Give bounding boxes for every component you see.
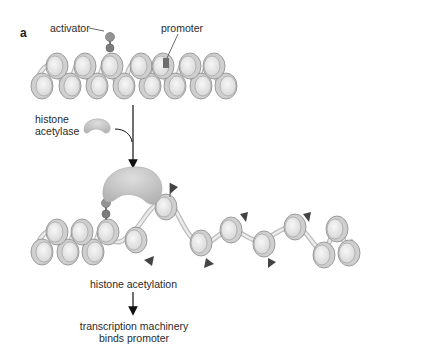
- activator-leader-line: [89, 28, 104, 31]
- label-histone-acetylase-line1: histone: [35, 113, 69, 125]
- promoter-leader-line: [167, 34, 178, 58]
- promoter-marker: [163, 58, 169, 68]
- open-chromatin-bottom: [31, 167, 360, 268]
- label-promoter: promoter: [161, 22, 203, 34]
- activator-icon: [106, 33, 115, 53]
- histone-acetylase-icon: [84, 119, 110, 133]
- label-result-line2: binds promoter: [70, 332, 198, 344]
- label-histone-acetylation: histone acetylation: [90, 278, 177, 290]
- label-histone-acetylase-line2: acetylase: [35, 125, 79, 137]
- open-nucleosomes: [125, 194, 360, 268]
- panel-label: a: [20, 26, 27, 40]
- label-result-line1: transcription machinery: [70, 320, 198, 332]
- condensed-nucleosomes-left: [31, 219, 119, 265]
- condensed-chromatin-top: [31, 28, 237, 99]
- label-activator: activator: [50, 22, 90, 34]
- acetylase-curved-arrow: [115, 129, 132, 142]
- histone-acetylase-bound-icon: [103, 167, 162, 204]
- chromatin-diagram: [0, 0, 426, 361]
